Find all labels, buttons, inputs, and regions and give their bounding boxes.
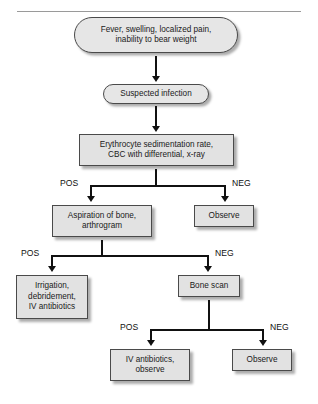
node-irrigation: Irrigation, debridement, IV antibiotics bbox=[16, 275, 88, 319]
node-irrigation-label: Irrigation, debridement, IV antibiotics bbox=[24, 281, 80, 313]
branch3-left-arrowhead bbox=[147, 340, 155, 346]
branch2-neg-label: NEG bbox=[215, 248, 234, 258]
connector-suspected-to-workup bbox=[155, 106, 157, 128]
connector-presentation-to-suspected bbox=[155, 56, 157, 78]
node-observe-first-label: Observe bbox=[205, 211, 244, 222]
node-workup: Erythrocyte sedimentation rate, CBC with… bbox=[79, 134, 234, 166]
branch1-stem bbox=[155, 169, 157, 186]
node-observe-first: Observe bbox=[194, 205, 254, 227]
node-iv-antibiotics-observe: IV antibiotics, observe bbox=[110, 349, 190, 381]
branch2-left-arrowhead bbox=[48, 266, 56, 272]
branch3-neg-label: NEG bbox=[270, 322, 289, 332]
top-divider-rule bbox=[17, 11, 301, 12]
branch3-stem bbox=[208, 300, 210, 330]
branch3-pos-label: POS bbox=[120, 322, 138, 332]
arrowhead-to-suspected bbox=[152, 76, 160, 82]
node-bone-scan-label: Bone scan bbox=[186, 281, 233, 292]
arrowhead-to-workup bbox=[152, 126, 160, 132]
node-workup-label: Erythrocyte sedimentation rate, CBC with… bbox=[96, 140, 217, 161]
node-aspiration: Aspiration of bone, arthrogram bbox=[52, 205, 152, 237]
node-suspected-infection: Suspected infection bbox=[103, 84, 209, 104]
node-suspected-infection-label: Suspected infection bbox=[116, 89, 195, 100]
branch1-left-arrowhead bbox=[87, 196, 95, 202]
branch1-pos-label: POS bbox=[60, 178, 78, 188]
branch1-crossbar bbox=[90, 185, 226, 187]
branch3-right-arrowhead bbox=[259, 340, 267, 346]
node-presentation: Fever, swelling, localized pain, inabili… bbox=[74, 17, 238, 53]
node-observe-second-label: Observe bbox=[243, 355, 282, 366]
branch2-pos-label: POS bbox=[21, 248, 39, 258]
node-presentation-label: Fever, swelling, localized pain, inabili… bbox=[97, 25, 216, 46]
node-bone-scan: Bone scan bbox=[178, 275, 240, 297]
branch2-right-arrowhead bbox=[204, 266, 212, 272]
branch1-right-arrowhead bbox=[221, 196, 229, 202]
flowchart-canvas: Fever, swelling, localized pain, inabili… bbox=[0, 0, 318, 404]
node-aspiration-label: Aspiration of bone, arthrogram bbox=[64, 211, 140, 232]
branch1-neg-label: NEG bbox=[232, 178, 251, 188]
branch2-stem bbox=[101, 240, 103, 256]
node-observe-second: Observe bbox=[232, 349, 292, 371]
node-iv-antibiotics-observe-label: IV antibiotics, observe bbox=[122, 355, 179, 376]
branch3-crossbar bbox=[150, 329, 264, 331]
branch2-crossbar bbox=[51, 255, 209, 257]
